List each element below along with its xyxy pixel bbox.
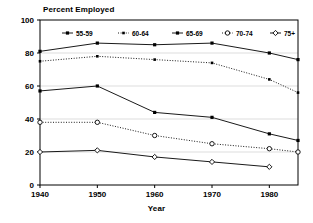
data-point-marker xyxy=(267,164,272,169)
y-axis-tick-label: 20 xyxy=(6,148,34,157)
data-point-marker xyxy=(267,147,271,151)
data-point-marker xyxy=(96,55,99,58)
y-axis-tick-label: 100 xyxy=(6,16,34,25)
data-point-marker xyxy=(211,62,214,65)
data-point-marker xyxy=(38,120,42,124)
series-line xyxy=(40,56,298,92)
data-point-marker xyxy=(210,142,214,146)
legend-sample-marker-70-74 xyxy=(225,31,229,35)
data-point-marker xyxy=(152,154,157,159)
data-point-marker xyxy=(176,31,179,34)
data-point-marker xyxy=(209,159,214,164)
data-point-marker xyxy=(122,32,125,35)
x-axis-title: Year xyxy=(0,204,313,213)
data-point-marker xyxy=(268,132,271,135)
y-axis-tick-label: 60 xyxy=(6,82,34,91)
data-point-marker xyxy=(153,58,156,61)
legend-sample-marker-75+ xyxy=(273,30,278,35)
data-point-marker xyxy=(153,111,156,114)
series-70-74 xyxy=(38,120,300,154)
data-point-marker xyxy=(153,43,156,46)
series-55-59 xyxy=(38,42,299,62)
y-axis-tick-label: 40 xyxy=(6,115,34,124)
x-axis-tick-label: 1960 xyxy=(146,190,164,199)
series-line xyxy=(40,43,298,60)
legend-label-55-59: 55-59 xyxy=(76,30,93,37)
chart-container: Percent Employed 020406080100 1940195019… xyxy=(0,0,313,223)
data-point-marker xyxy=(39,60,42,63)
data-point-marker xyxy=(268,51,271,54)
legend-label-75+: 75+ xyxy=(284,30,295,37)
data-point-marker xyxy=(225,31,229,35)
data-point-marker xyxy=(96,42,99,45)
x-axis-tick-label: 1970 xyxy=(203,190,221,199)
series-65-69 xyxy=(38,84,299,142)
data-point-marker xyxy=(38,89,41,92)
data-point-marker xyxy=(37,149,42,154)
legend-sample-marker-60-64 xyxy=(122,32,125,35)
legend-sample-marker-55-59 xyxy=(66,31,69,34)
legend-sample-marker-65-69 xyxy=(176,31,179,34)
data-point-marker xyxy=(297,91,300,94)
data-point-marker xyxy=(273,30,278,35)
data-point-marker xyxy=(66,31,69,34)
legend-label-65-69: 65-69 xyxy=(186,30,203,37)
data-point-marker xyxy=(268,78,271,81)
x-axis-tick-label: 1980 xyxy=(260,190,278,199)
data-point-marker xyxy=(38,50,41,53)
data-point-marker xyxy=(152,133,156,137)
series-line xyxy=(40,86,298,140)
data-point-marker xyxy=(95,120,99,124)
data-point-marker xyxy=(296,58,299,61)
data-point-marker xyxy=(296,139,299,142)
legend-label-60-64: 60-64 xyxy=(132,30,149,37)
data-point-marker xyxy=(210,42,213,45)
series-line xyxy=(40,122,298,152)
data-point-marker xyxy=(96,84,99,87)
y-axis-tick-label: 80 xyxy=(6,49,34,58)
x-axis-tick-label: 1940 xyxy=(31,190,49,199)
y-axis-tick-label: 0 xyxy=(6,181,34,190)
legend-label-70-74: 70-74 xyxy=(236,30,253,37)
data-point-marker xyxy=(210,116,213,119)
data-point-marker xyxy=(296,150,300,154)
x-axis-tick-label: 1950 xyxy=(88,190,106,199)
series-75+ xyxy=(37,148,272,170)
